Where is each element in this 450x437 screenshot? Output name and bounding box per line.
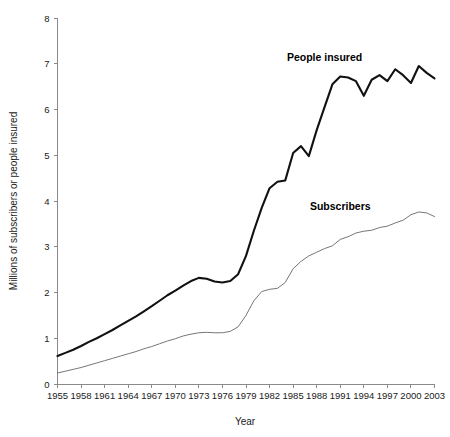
y-tick-label: 2: [44, 287, 49, 298]
x-tick-label: 1976: [212, 390, 233, 401]
line-chart: 012345678 195519581961196419671970197319…: [0, 0, 450, 437]
x-tick-label: 1958: [70, 390, 91, 401]
series-label-people-insured: People insured: [287, 51, 362, 63]
y-tick-label: 6: [44, 104, 49, 115]
x-tick-label: 1955: [47, 390, 68, 401]
x-tick-label: 1961: [94, 390, 115, 401]
x-tick-label: 1967: [141, 390, 162, 401]
y-tick-label: 0: [44, 379, 49, 390]
x-tick-label: 1997: [377, 390, 398, 401]
series-label-subscribers: Subscribers: [310, 200, 371, 212]
x-tick-label: 2003: [424, 390, 445, 401]
y-tick-label: 8: [44, 13, 49, 24]
y-tick-label: 5: [44, 150, 49, 161]
y-tick-label: 4: [44, 196, 49, 207]
x-tick-label: 1964: [118, 390, 139, 401]
x-tick-label: 1973: [188, 390, 209, 401]
x-tick-label: 1985: [283, 390, 304, 401]
y-axis-group: 012345678: [44, 13, 57, 390]
x-tick-label: 1988: [306, 390, 327, 401]
x-tick-label: 1970: [165, 390, 186, 401]
series-line-people-insured: [58, 66, 435, 356]
y-tick-label: 7: [44, 58, 49, 69]
y-axis-title: Millions of subscribers or people insure…: [8, 112, 19, 290]
x-axis-group: 1955195819611964196719701973197619791982…: [47, 384, 445, 401]
y-tick-label: 1: [44, 333, 49, 344]
chart-container: 012345678 195519581961196419671970197319…: [0, 0, 450, 437]
data-series-group: [58, 66, 435, 373]
series-annotations: People insuredSubscribers: [287, 51, 371, 212]
x-axis-ticks: 1955195819611964196719701973197619791982…: [47, 384, 445, 401]
series-line-subscribers: [58, 212, 435, 373]
x-tick-label: 1991: [330, 390, 351, 401]
y-tick-label: 3: [44, 241, 49, 252]
y-axis-ticks: 012345678: [44, 13, 57, 390]
x-tick-label: 1979: [235, 390, 256, 401]
x-tick-label: 1994: [353, 390, 374, 401]
x-tick-label: 2000: [400, 390, 421, 401]
x-axis-title: Year: [235, 416, 256, 427]
x-tick-label: 1982: [259, 390, 280, 401]
